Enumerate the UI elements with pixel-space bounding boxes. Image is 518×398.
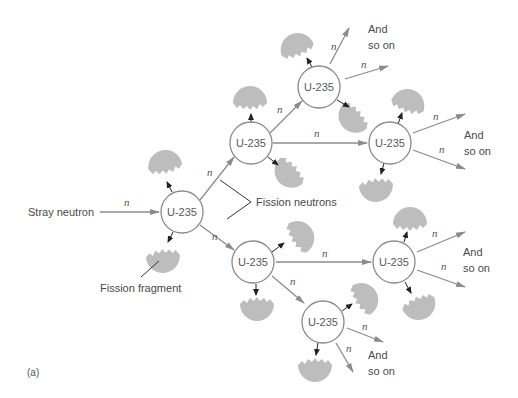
svg-text:so on: so on (463, 262, 490, 274)
n-label: n (277, 103, 283, 115)
n-label: n (207, 166, 213, 178)
n-label: n (346, 342, 352, 354)
fragment-icon (233, 86, 267, 110)
u235-node-3: U-235 (298, 66, 340, 108)
fragment-icon (240, 297, 274, 321)
fragment-icon (400, 291, 440, 325)
svg-text:so on: so on (368, 365, 395, 377)
node-label: U-235 (304, 81, 334, 93)
arrow-n5-n7 (272, 276, 304, 303)
u235-node-6: U-235 (373, 241, 415, 283)
arrow-n4-upper (413, 114, 465, 133)
and-so-on-right-lower: And so on (463, 246, 490, 274)
node-label: U-235 (167, 206, 197, 218)
figure-caption: (a) (27, 367, 39, 378)
svg-text:so on: so on (368, 39, 395, 51)
n-label: n (124, 196, 130, 208)
fission-neutrons-bracket (220, 180, 251, 219)
fragment-icon (298, 358, 332, 382)
fragment-icon (145, 248, 181, 275)
n-label: n (439, 143, 445, 155)
u235-node-2: U-235 (230, 122, 272, 164)
fragment-icon (347, 277, 385, 318)
node-label: U-235 (379, 256, 409, 268)
u235-node-7: U-235 (302, 301, 344, 343)
svg-text:And: And (368, 349, 388, 361)
fission-fragment-label: Fission fragment (100, 282, 181, 294)
u235-node-5: U-235 (232, 241, 274, 283)
fragment-icon (276, 28, 316, 62)
node-label: U-235 (308, 316, 338, 328)
fragment-icon (268, 153, 308, 194)
fragment-icon (393, 207, 427, 231)
and-so-on-right-upper: And so on (464, 129, 491, 157)
svg-text:so on: so on (464, 145, 491, 157)
arrow-n3-right (345, 66, 388, 79)
n-label: n (314, 127, 320, 139)
and-so-on-top: And so on (368, 23, 395, 51)
arrow-n2-n3 (270, 101, 302, 133)
n-label: n (290, 275, 296, 287)
svg-text:And: And (368, 23, 388, 35)
fission-chain-diagram: n n n n n n n n n n n n n n n (0, 0, 518, 398)
arrow-n6-lower (417, 270, 465, 287)
fission-neutrons-label: Fission neutrons (256, 196, 337, 208)
n-label: n (212, 230, 218, 242)
node-label: U-235 (375, 137, 405, 149)
node-label: U-235 (238, 256, 268, 268)
n-label: n (433, 110, 439, 122)
fragment-icon (146, 147, 184, 177)
n-label: n (441, 260, 447, 272)
n-label: n (331, 40, 337, 52)
n-label: n (432, 227, 438, 239)
n-label: n (361, 58, 367, 70)
fragment-icon (358, 177, 394, 204)
fragment-icon (332, 98, 372, 139)
svg-text:And: And (464, 129, 484, 141)
arrow-n1-n2 (200, 157, 234, 200)
stray-neutron-label: Stray neutron (28, 206, 94, 218)
node-label: U-235 (236, 137, 266, 149)
fragment-icon (283, 215, 321, 256)
u235-node-1: U-235 (161, 191, 203, 233)
arrow-n6-upper (417, 232, 465, 252)
n-label: n (322, 247, 328, 259)
fragment-icon (389, 84, 429, 118)
and-so-on-bottom: And so on (368, 349, 395, 377)
svg-text:And: And (463, 246, 483, 258)
u235-node-4: U-235 (369, 122, 411, 164)
n-label: n (362, 320, 368, 332)
